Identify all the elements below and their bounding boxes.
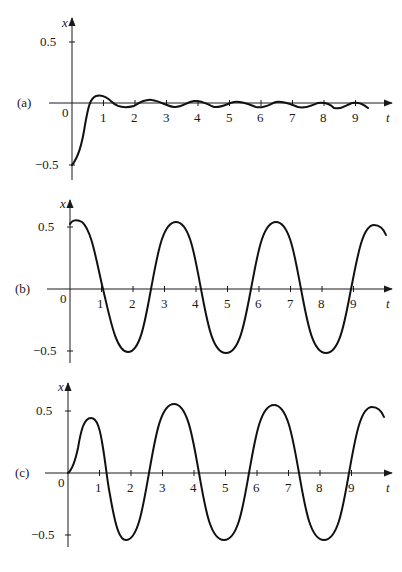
svg-text:9: 9 (352, 110, 359, 125)
panel-b: x t 0.5 −0.5 0 (b) 1 2 3 4 5 6 7 8 9 (15, 196, 392, 363)
svg-text:7: 7 (289, 110, 296, 125)
svg-text:9: 9 (348, 480, 355, 495)
panel-label: (c) (15, 465, 29, 480)
svg-text:8: 8 (318, 296, 325, 311)
svg-text:2: 2 (127, 480, 134, 495)
x-axis-label: x (59, 196, 66, 211)
svg-text:1: 1 (100, 110, 107, 125)
svg-text:3: 3 (163, 110, 170, 125)
origin-label: 0 (60, 291, 67, 306)
svg-text:8: 8 (316, 480, 323, 495)
panel-label: (a) (17, 95, 31, 110)
t-tick-labels: 1 2 3 4 5 6 7 8 9 (97, 296, 357, 311)
origin-label: 0 (62, 105, 69, 120)
svg-text:6: 6 (257, 110, 264, 125)
svg-text:3: 3 (159, 480, 166, 495)
panel-label: (b) (15, 281, 30, 296)
y-tick-label-neg: −0.5 (31, 527, 55, 542)
t-axis-label: t (386, 110, 390, 125)
y-tick-label-pos: 0.5 (38, 219, 54, 234)
svg-text:6: 6 (255, 296, 262, 311)
svg-text:8: 8 (320, 110, 327, 125)
svg-text:7: 7 (285, 480, 292, 495)
svg-text:1: 1 (97, 296, 104, 311)
svg-text:2: 2 (131, 110, 138, 125)
t-axis-label: t (386, 296, 390, 311)
panel-c: x t 0.5 −0.5 0 (c) 1 2 3 4 5 6 7 8 9 (15, 379, 392, 547)
panel-a: x t 0.5 −0.5 0 (a) 1 2 3 4 5 6 7 8 9 (17, 15, 392, 180)
svg-text:7: 7 (287, 296, 294, 311)
svg-text:2: 2 (129, 296, 136, 311)
y-tick-label-pos: 0.5 (36, 403, 52, 418)
svg-text:1: 1 (95, 480, 102, 495)
svg-text:4: 4 (190, 480, 197, 495)
svg-text:6: 6 (253, 480, 260, 495)
x-axis-label: x (57, 379, 64, 394)
figure: x t 0.5 −0.5 0 (a) 1 2 3 4 5 6 7 8 9 (0, 0, 402, 572)
svg-text:4: 4 (194, 110, 201, 125)
svg-text:4: 4 (192, 296, 199, 311)
svg-text:3: 3 (161, 296, 168, 311)
svg-text:9: 9 (350, 296, 357, 311)
y-tick-label-neg: −0.5 (35, 157, 59, 172)
t-tick-labels: 1 2 3 4 5 6 7 8 9 (100, 110, 359, 125)
svg-text:5: 5 (222, 480, 229, 495)
x-axis-label: x (61, 15, 68, 30)
t-axis-label: t (386, 480, 390, 495)
t-tick-labels: 1 2 3 4 5 6 7 8 9 (95, 480, 355, 495)
origin-label: 0 (58, 475, 65, 490)
y-tick-label-pos: 0.5 (40, 34, 56, 49)
svg-text:5: 5 (224, 296, 231, 311)
y-tick-label-neg: −0.5 (33, 343, 57, 358)
svg-text:5: 5 (226, 110, 233, 125)
